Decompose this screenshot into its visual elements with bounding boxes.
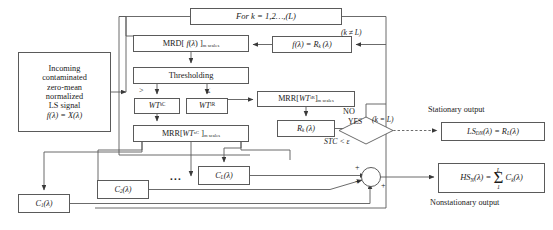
c2-box: C2(λ) — [97, 180, 149, 199]
k-not-equal-L-label: (k ≠ L) — [341, 28, 362, 37]
sum-plus-bottom: + — [381, 181, 386, 190]
input-line-1: Incoming — [49, 64, 81, 73]
for-loop-box: For k = 1,2…,(L) — [190, 8, 342, 25]
ls-dn-label: LSDN(λ) = RL(λ) — [467, 127, 519, 137]
stationary-output-box: LSDN(λ) = RL(λ) — [441, 122, 545, 141]
wt-sc-label: WTsC — [149, 101, 166, 110]
wt-ir-label: WTiR — [199, 101, 215, 110]
c2-label: C2(λ) — [114, 185, 131, 195]
input-line-4: normalized — [46, 92, 83, 101]
stationary-output-caption: Stationary output — [428, 105, 485, 114]
input-line-3: zero-mean — [47, 83, 82, 92]
cL-box: CL(λ) — [198, 166, 250, 185]
cL-label: CL(λ) — [215, 171, 233, 181]
input-signal-box: Incoming contaminated zero-mean normaliz… — [18, 52, 111, 132]
sum-plus-top: + — [355, 163, 360, 172]
c1-label: C1(λ) — [35, 199, 52, 209]
mrr-ir-label: MRR[WTiR]m scales — [278, 94, 334, 103]
mrr-ir-box: MRR[WTiR]m scales — [257, 91, 355, 107]
input-line-2: contaminated — [42, 73, 87, 82]
rk-box: Rk (λ) — [277, 120, 335, 137]
mrr-sc-box: MRR[WTsC ]m scales — [133, 125, 249, 142]
ellipsis-label: ... — [170, 170, 182, 182]
wt-sc-box: WTsC — [134, 98, 180, 114]
nonstationary-output-caption: Nonstationary output — [430, 198, 499, 207]
flowchart-canvas: For k = 1,2…,(L) Incoming contaminated z… — [0, 0, 553, 230]
nonstationary-output-box: HSN(λ) = LΣ1 Ck(λ) — [438, 163, 545, 193]
greater-than-branch-label: > — [139, 86, 144, 95]
wt-ir-box: WTiR — [186, 98, 228, 114]
f-equals-rk-box: f(λ) = Rk (λ) — [272, 36, 352, 53]
mrd-label: MRD[ f(λ) ]m scales — [163, 39, 220, 48]
thresholding-box: Thresholding — [133, 67, 249, 84]
no-branch-label: NO — [343, 107, 355, 116]
sum-plus-middle: + — [355, 177, 360, 186]
for-loop-label: For k = 1,2…,(L) — [236, 12, 296, 22]
decision-label: STC < ε — [324, 137, 350, 146]
c1-box: C1(λ) — [18, 194, 70, 213]
less-equal-branch-label: ≤ — [206, 86, 210, 95]
input-formula: f(λ) = X(λ) — [47, 111, 82, 120]
mrr-sc-label: MRR[WTsC ]m scales — [162, 129, 220, 138]
input-line-5: LS signal — [49, 101, 81, 110]
thresholding-label: Thresholding — [169, 71, 214, 80]
f-equals-rk-label: f(λ) = Rk (λ) — [292, 40, 331, 50]
yes-branch-label: YES — [348, 117, 362, 126]
hs-n-label: HSN(λ) = LΣ1 Ck(λ) — [460, 167, 523, 190]
k-equal-L-label: (k = L) — [372, 115, 394, 124]
mrd-box: MRD[ f(λ) ]m scales — [133, 35, 249, 52]
rk-label: Rk (λ) — [297, 124, 315, 134]
